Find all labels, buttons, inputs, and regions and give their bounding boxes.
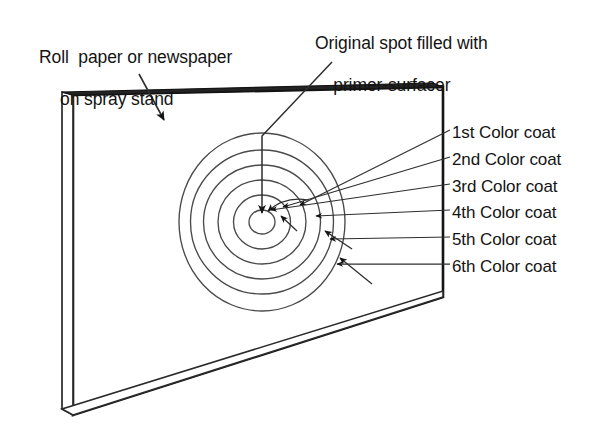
coat-label-2: 2nd Color coat (452, 150, 561, 169)
roll-paper-caption: Roll paper or newspaper on spray stand (20, 26, 232, 152)
figure-canvas: Roll paper or newspaper on spray stand O… (0, 0, 594, 446)
coat-label-4: 4th Color coat (452, 203, 556, 222)
coat-label-5: 5th Color coat (452, 230, 556, 249)
coat-label-3: 3rd Color coat (452, 177, 557, 196)
original-spot-caption-line1: Original spot filled with (315, 33, 488, 53)
original-spot-caption: Original spot filled with primer-surface… (296, 12, 488, 138)
coat-label-6: 6th Color coat (452, 257, 556, 276)
original-spot-caption-line2: primer-surfacer (296, 75, 488, 96)
coat-label-1: 1st Color coat (452, 123, 555, 142)
roll-paper-caption-line1: Roll paper or newspaper (39, 47, 232, 67)
roll-paper-caption-line2: on spray stand (60, 89, 232, 110)
